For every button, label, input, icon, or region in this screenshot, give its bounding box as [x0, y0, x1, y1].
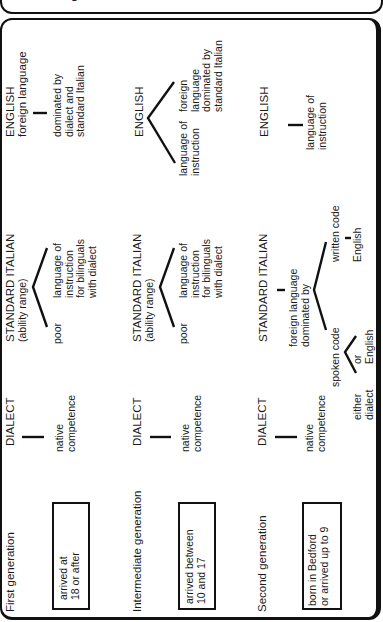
standard-italian-note: foreign language dominated by [288, 247, 311, 347]
arrival-text: born in Bedford or arrived up to 9 [307, 506, 330, 606]
diagram-title: Multilingualism of Italians in Bedford [24, 0, 256, 1]
written-code-label: written code [330, 192, 342, 262]
branch-instruction: language of instruction for bilinguals w… [52, 223, 98, 298]
dialect-note: native competence [304, 382, 327, 452]
spoken-option-english: or English [352, 319, 375, 364]
branch-poor: poor [178, 322, 190, 344]
generation-label: First generation [4, 437, 16, 612]
arrival-text: arrived between 10 and 17 [184, 506, 207, 604]
branch-instruction: language of instruction for bilinguals w… [178, 223, 224, 298]
spoken-code-label: spoken code [330, 317, 342, 387]
branch-poor: poor [52, 322, 64, 344]
english-note: language of instruction [305, 80, 328, 150]
standard-italian-label: STANDARD ITALIAN (ability range) [4, 222, 28, 342]
dialect-label: DIALECT [256, 386, 268, 446]
dialect-label: DIALECT [131, 386, 143, 446]
standard-italian-label: STANDARD ITALIAN (ability range) [131, 222, 155, 342]
english-label: ENGLISH [133, 87, 145, 137]
english-note: dominated by dialect and standard Italia… [52, 52, 87, 137]
branch-foreign: foreign language dominated by standard I… [178, 27, 224, 112]
dialect-label: DIALECT [4, 386, 16, 446]
dialect-note: native competence [54, 382, 77, 452]
arrival-text: arrived at 18 or after [58, 510, 81, 600]
dialect-note: native competence [180, 382, 203, 452]
generation-label: Second generation [256, 437, 268, 612]
generation-label: Intermediate generation [131, 437, 143, 612]
standard-italian-label: STANDARD ITALIAN [257, 222, 269, 342]
branch-instruction: language of instruction [178, 116, 201, 176]
spoken-option-dialect: either dialect [352, 375, 375, 420]
written-code-value: English [352, 212, 364, 262]
english-label: ENGLISH foreign language [4, 52, 28, 137]
english-label: ENGLISH [258, 87, 270, 137]
title-bar: Multilingualism of Italians in Bedford [0, 0, 383, 14]
